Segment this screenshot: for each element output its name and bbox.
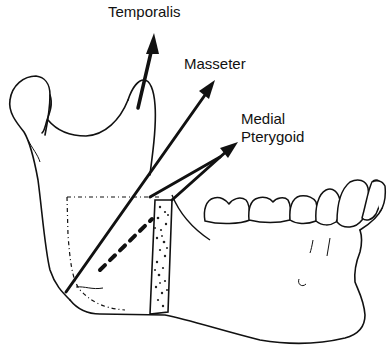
mandible-diagram: Temporalis Masseter Medial Pterygoid: [0, 0, 387, 351]
temporalis-arrow: [138, 33, 159, 108]
masseter-label: Masseter: [184, 55, 246, 73]
masseter-arrow: [66, 80, 215, 292]
medial-pterygoid-arrow: [150, 142, 238, 200]
temporalis-label: Temporalis: [108, 3, 181, 21]
medial-pterygoid-label-line1: Medial: [241, 110, 304, 128]
medial-pterygoid-label: Medial Pterygoid: [241, 110, 304, 146]
medial-pterygoid-label-line2: Pterygoid: [241, 128, 304, 146]
masseter-region-outline: [67, 197, 160, 310]
teeth: [204, 180, 385, 227]
mandible-illustration: [0, 0, 387, 351]
osteotomy-band: [150, 200, 172, 314]
osteotomy-dashed-line: [100, 219, 152, 270]
